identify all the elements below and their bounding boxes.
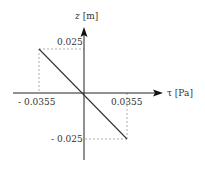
y-axis-symbol: z [75, 11, 80, 21]
tick-y-negative: - 0.025 [51, 135, 83, 144]
tick-x-positive: 0.0355 [111, 98, 143, 107]
x-axis-symbol: τ [167, 88, 172, 98]
y-axis-label: z [m] [75, 12, 98, 21]
diagram: z [m] τ [Pa] 0.025 - 0.025 - 0.0355 0.03… [0, 0, 205, 171]
data-line [39, 49, 127, 139]
x-axis-unit: [Pa] [175, 88, 193, 98]
x-axis-label: τ [Pa] [167, 89, 193, 98]
plot-canvas [0, 0, 205, 171]
tick-x-negative: - 0.0355 [18, 98, 55, 107]
tick-y-positive: 0.025 [57, 38, 83, 47]
y-axis-unit: [m] [83, 11, 99, 21]
